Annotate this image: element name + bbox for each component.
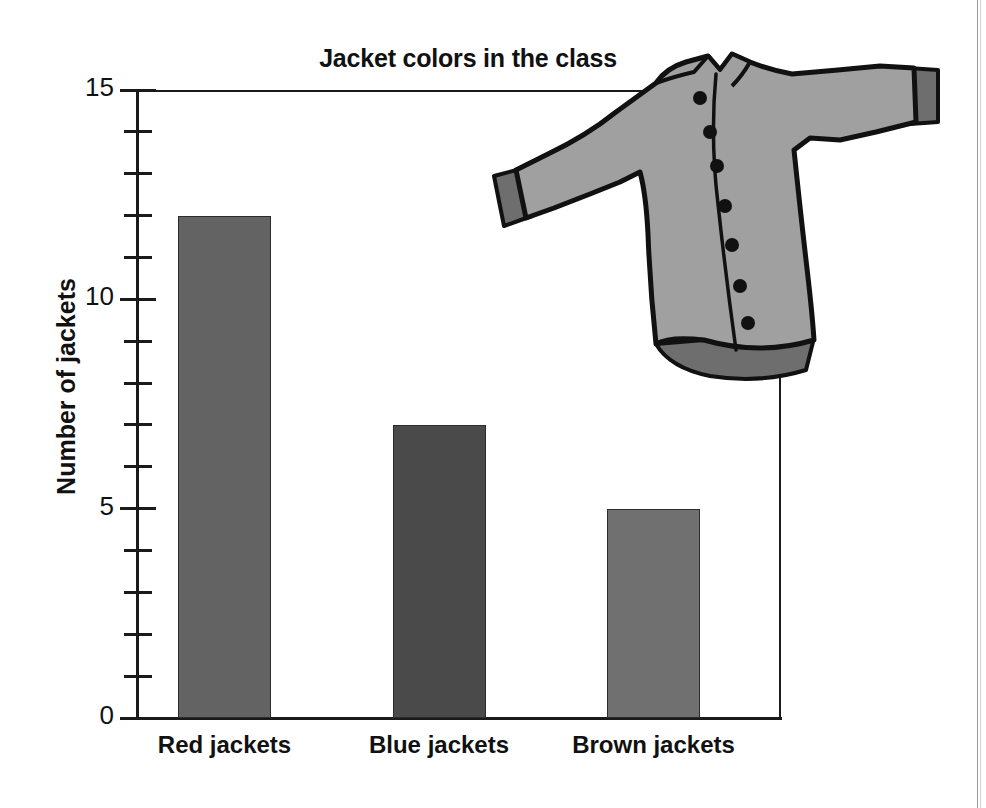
y-tick-minor xyxy=(124,633,152,636)
bar xyxy=(607,509,700,718)
y-axis-line xyxy=(136,90,139,720)
y-tick-label: 5 xyxy=(56,491,114,522)
y-tick-label: 15 xyxy=(56,72,114,103)
page-canvas: Jacket colors in the class Number of jac… xyxy=(0,0,986,808)
y-tick-label: 10 xyxy=(56,281,114,312)
x-axis-category-label: Blue jackets xyxy=(329,731,549,759)
y-tick-minor xyxy=(124,214,152,217)
jacket-button xyxy=(703,125,717,139)
bar-chart: Jacket colors in the class Number of jac… xyxy=(0,0,986,808)
y-tick-minor xyxy=(124,423,152,426)
jacket-button xyxy=(733,279,747,293)
x-axis-category-label: Brown jackets xyxy=(544,731,764,759)
jacket-placket-line xyxy=(713,74,736,350)
jacket-button xyxy=(710,159,724,173)
jacket-body xyxy=(516,54,916,348)
jacket-illustration xyxy=(470,48,960,398)
y-tick-major xyxy=(120,717,156,720)
jacket-button xyxy=(741,316,755,330)
y-tick-minor xyxy=(124,675,152,678)
bar xyxy=(393,425,486,718)
y-tick-minor xyxy=(124,256,152,259)
y-tick-major xyxy=(120,89,156,92)
jacket-hem xyxy=(656,338,814,379)
y-tick-major xyxy=(120,298,156,301)
jacket-right-cuff xyxy=(908,68,938,124)
jacket-button xyxy=(725,238,739,252)
y-tick-minor xyxy=(124,465,152,468)
plot-right-border xyxy=(779,90,781,720)
plot-top-border xyxy=(136,90,782,92)
y-tick-minor xyxy=(124,549,152,552)
y-tick-minor xyxy=(124,591,152,594)
jacket-left-cuff xyxy=(494,168,532,226)
x-axis-category-label: Red jackets xyxy=(115,731,335,759)
y-tick-minor xyxy=(124,130,152,133)
jacket-button xyxy=(718,199,732,213)
bar xyxy=(178,216,271,718)
jacket-group xyxy=(494,54,938,379)
y-tick-minor xyxy=(124,172,152,175)
jacket-button xyxy=(693,91,707,105)
y-tick-major xyxy=(120,507,156,510)
chart-title: Jacket colors in the class xyxy=(258,44,678,73)
y-tick-label: 0 xyxy=(56,700,114,731)
y-tick-minor xyxy=(124,340,152,343)
y-tick-minor xyxy=(124,382,152,385)
